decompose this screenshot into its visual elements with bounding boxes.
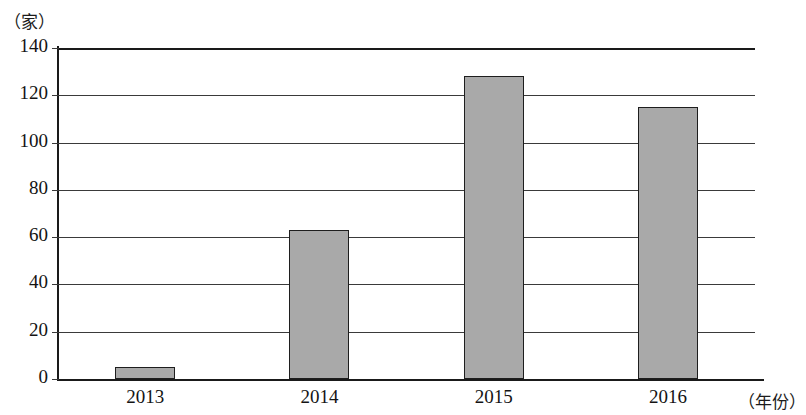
x-tick-label-2013: 2013: [85, 386, 205, 408]
x-axis-unit-label: （年份）: [738, 388, 806, 413]
bar-chart: （家） （年份） 020406080100120140 201320142015…: [0, 0, 806, 415]
gridline-140: [58, 48, 755, 50]
y-tick-label-60: 60: [2, 224, 48, 246]
x-tick-label-2016: 2016: [608, 386, 728, 408]
bar-2014: [289, 230, 349, 379]
y-tick-label-40: 40: [2, 271, 48, 293]
y-tick-label-140: 140: [2, 35, 48, 57]
y-tick-mark-60: [52, 237, 59, 238]
gridline-120: [58, 95, 755, 96]
bar-2016: [638, 107, 698, 379]
plot-area: [58, 48, 755, 379]
y-tick-mark-100: [52, 143, 59, 144]
y-tick-mark-0: [52, 379, 59, 380]
y-tick-mark-20: [52, 332, 59, 333]
y-tick-label-120: 120: [2, 82, 48, 104]
y-tick-mark-40: [52, 284, 59, 285]
y-tick-mark-80: [52, 190, 59, 191]
y-tick-label-100: 100: [2, 130, 48, 152]
y-tick-label-0: 0: [2, 366, 48, 388]
y-tick-label-20: 20: [2, 319, 48, 341]
x-tick-label-2014: 2014: [259, 386, 379, 408]
y-tick-mark-140: [52, 48, 59, 49]
x-axis-baseline: [58, 379, 764, 381]
y-tick-mark-120: [52, 95, 59, 96]
x-tick-label-2015: 2015: [434, 386, 554, 408]
bar-2013: [115, 367, 175, 379]
bar-2015: [464, 76, 524, 379]
y-tick-label-80: 80: [2, 177, 48, 199]
y-axis-tick-labels: 020406080100120140: [0, 0, 48, 415]
